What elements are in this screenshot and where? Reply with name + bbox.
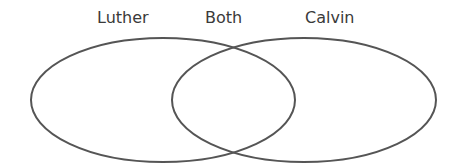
venn-ellipses [0, 0, 461, 167]
ellipse-luther [31, 38, 295, 162]
ellipse-calvin [172, 38, 436, 162]
